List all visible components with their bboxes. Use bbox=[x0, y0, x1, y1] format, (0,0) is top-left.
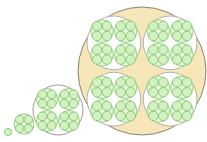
circle-shape bbox=[116, 21, 125, 30]
circle-level-0 bbox=[159, 31, 168, 40]
circle-shape bbox=[172, 55, 181, 64]
circle-shape bbox=[60, 90, 69, 99]
circle-level-0 bbox=[47, 99, 56, 108]
circle-level-1 bbox=[147, 100, 170, 123]
circle-level-0 bbox=[47, 112, 56, 121]
circle-shape bbox=[69, 121, 78, 130]
circle-level-0 bbox=[149, 21, 158, 30]
circle-shape bbox=[159, 101, 168, 110]
circle-shape bbox=[92, 78, 101, 87]
circle-shape bbox=[149, 31, 158, 40]
circle-level-0 bbox=[69, 112, 78, 121]
circle-shape bbox=[92, 55, 101, 64]
circle-level-0 bbox=[149, 31, 158, 40]
circle-shape bbox=[172, 88, 181, 97]
circle-level-0 bbox=[182, 101, 191, 110]
circle-shape bbox=[24, 115, 32, 123]
circle-shape bbox=[149, 55, 158, 64]
circle-shape bbox=[15, 124, 23, 132]
circle-shape bbox=[116, 101, 125, 110]
circle-level-0 bbox=[38, 121, 47, 130]
circle-shape bbox=[116, 111, 125, 120]
circle-level-1 bbox=[147, 20, 170, 43]
circle-shape bbox=[47, 112, 56, 121]
circle-level-0 bbox=[92, 88, 101, 97]
circle-level-0 bbox=[15, 115, 23, 123]
circle-shape bbox=[116, 88, 125, 97]
circle-level-0 bbox=[172, 101, 181, 110]
circle-shape bbox=[116, 55, 125, 64]
circle-shape bbox=[182, 55, 191, 64]
circle-shape bbox=[92, 101, 101, 110]
circle-level-0 bbox=[116, 101, 125, 110]
circle-level-0 bbox=[102, 55, 111, 64]
circle-shape bbox=[159, 55, 168, 64]
circle-level-0 bbox=[116, 21, 125, 30]
circle-level-2 bbox=[33, 85, 83, 135]
circle-level-0 bbox=[102, 78, 111, 87]
circle-level-0 bbox=[92, 111, 101, 120]
circle-level-0 bbox=[159, 111, 168, 120]
circle-level-1 bbox=[59, 111, 80, 132]
circle-shape bbox=[126, 45, 135, 54]
circle-shape bbox=[149, 111, 158, 120]
circle-level-0 bbox=[116, 78, 125, 87]
circle-shape bbox=[159, 31, 168, 40]
circle-level-1 bbox=[114, 76, 137, 99]
circle-level-0 bbox=[116, 88, 125, 97]
circle-level-0 bbox=[182, 78, 191, 87]
circle-level-2 bbox=[143, 16, 197, 70]
circle-level-0 bbox=[159, 78, 168, 87]
circle-shape bbox=[126, 78, 135, 87]
circle-shape bbox=[15, 115, 23, 123]
circle-level-0 bbox=[172, 45, 181, 54]
circle-shape bbox=[60, 99, 69, 108]
circle-shape bbox=[47, 99, 56, 108]
circle-shape bbox=[92, 111, 101, 120]
circle-level-0 bbox=[172, 55, 181, 64]
circle-level-0 bbox=[69, 90, 78, 99]
circle-shape bbox=[182, 111, 191, 120]
circle-level-0 bbox=[24, 124, 32, 132]
circle-level-1 bbox=[91, 76, 114, 99]
circle-shape bbox=[126, 21, 135, 30]
circle-level-0 bbox=[159, 101, 168, 110]
circle-shape bbox=[172, 45, 181, 54]
circle-level-0 bbox=[182, 55, 191, 64]
circle-level-0 bbox=[172, 78, 181, 87]
circle-level-0 bbox=[149, 88, 158, 97]
circle-level-0 bbox=[172, 21, 181, 30]
circle-level-1 bbox=[91, 43, 114, 66]
circle-level-0 bbox=[126, 55, 135, 64]
circle-shape bbox=[182, 101, 191, 110]
circle-level-0 bbox=[92, 78, 101, 87]
circle-shape bbox=[92, 45, 101, 54]
circle-level-0 bbox=[149, 101, 158, 110]
circle-level-0 bbox=[172, 111, 181, 120]
circle-shape bbox=[172, 111, 181, 120]
circle-shape bbox=[69, 112, 78, 121]
circle-shape bbox=[126, 88, 135, 97]
circle-level-0 bbox=[92, 101, 101, 110]
circle-level-0 bbox=[159, 21, 168, 30]
circle-shape bbox=[102, 31, 111, 40]
circle-level-3 bbox=[78, 7, 206, 135]
circle-level-0 bbox=[69, 121, 78, 130]
circle-level-0 bbox=[69, 99, 78, 108]
circle-shape bbox=[182, 78, 191, 87]
circle-shape bbox=[182, 88, 191, 97]
circle-shape bbox=[47, 121, 56, 130]
circle-level-0 bbox=[126, 88, 135, 97]
circle-shape bbox=[159, 78, 168, 87]
circle-level-0 bbox=[4, 128, 11, 135]
circle-shape bbox=[149, 45, 158, 54]
circle-shape bbox=[172, 78, 181, 87]
circle-shape bbox=[102, 101, 111, 110]
circle-level-0 bbox=[102, 88, 111, 97]
circle-shape bbox=[38, 112, 47, 121]
circle-level-0 bbox=[126, 101, 135, 110]
circle-shape bbox=[159, 111, 168, 120]
circle-level-1 bbox=[147, 43, 170, 66]
circle-shape bbox=[69, 99, 78, 108]
circle-level-0 bbox=[172, 31, 181, 40]
